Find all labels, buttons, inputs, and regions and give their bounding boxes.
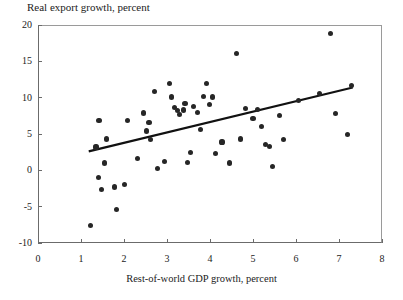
x-tick-label: 6 xyxy=(284,254,308,264)
page-title: Real export growth, percent xyxy=(27,1,150,14)
y-tick-label: 20 xyxy=(2,20,32,30)
x-tick-label: 5 xyxy=(241,254,265,264)
x-tick-label: 7 xyxy=(327,254,351,264)
plot-area xyxy=(38,25,382,243)
x-tick-label: 8 xyxy=(370,254,394,264)
x-tick-label: 0 xyxy=(26,254,50,264)
x-tick-label: 2 xyxy=(112,254,136,264)
x-tick-label: 3 xyxy=(155,254,179,264)
x-axis-label: Rest-of-world GDP growth, percent xyxy=(0,272,403,285)
y-tick-label: 5 xyxy=(2,129,32,139)
scatter-plot-figure: Real export growth, percent -10-50510152… xyxy=(0,0,403,300)
y-tick-label: -5 xyxy=(2,202,32,212)
x-tick-label: 4 xyxy=(198,254,222,264)
y-tick-label: -10 xyxy=(2,238,32,248)
x-tick-label: 1 xyxy=(69,254,93,264)
y-tick-label: 0 xyxy=(2,165,32,175)
y-tick-label: 15 xyxy=(2,56,32,66)
y-tick-label: 10 xyxy=(2,93,32,103)
